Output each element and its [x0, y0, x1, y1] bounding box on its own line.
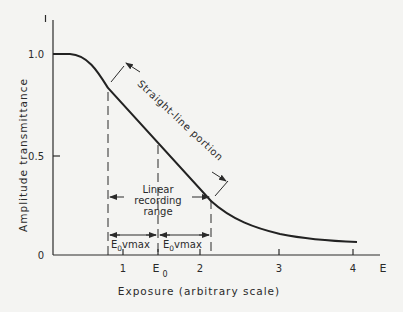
x-axis-label: Exposure (arbitrary scale): [118, 285, 280, 297]
linear-range-label: recording: [134, 195, 181, 206]
straight-line-label: Straight-line portion: [135, 78, 225, 163]
x-tick-label: 4: [350, 263, 356, 274]
chart: 1.0 0.5 0 Amplitude transmittance 1 E 0 …: [0, 0, 403, 312]
x-axis-end-label: E: [380, 262, 387, 275]
straight-line-annotation: [111, 63, 228, 196]
linear-range-label: Linear: [142, 184, 174, 195]
axes: [46, 15, 381, 255]
linear-range-label: range: [143, 206, 172, 217]
y-tick-label: 0: [38, 250, 44, 261]
x-tick-label: 2: [197, 263, 203, 274]
x-tick-label: 3: [276, 263, 282, 274]
y-tick-label: 1.0: [28, 49, 44, 60]
y-tick-label: 0.5: [28, 151, 44, 162]
dashed-guides: [108, 92, 211, 255]
y-axis-label: Amplitude transmittance: [17, 78, 29, 232]
x-tick-label-e0: E: [153, 262, 160, 275]
x-tick-label-e0-sub: 0: [162, 270, 167, 279]
x-tick-label: 1: [120, 263, 126, 274]
e0vmax-right: E0vmax: [163, 239, 202, 253]
e0vmax-left: E0vmax: [111, 239, 150, 253]
